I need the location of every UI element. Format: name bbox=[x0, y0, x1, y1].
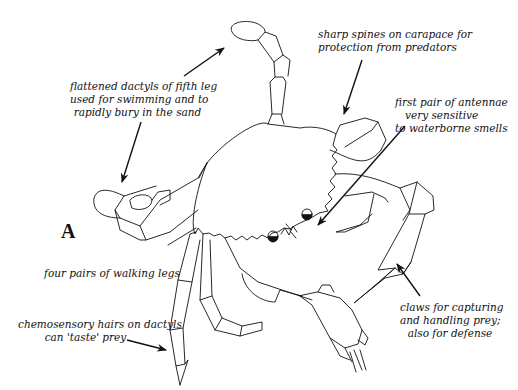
annotation-line: and handling prey; bbox=[400, 314, 500, 327]
annotation-line: to waterborne smells bbox=[395, 122, 505, 135]
walking-leg-1 bbox=[170, 232, 200, 385]
annotation-line: first pair of antennae bbox=[395, 96, 505, 109]
walking-leg-right-1 bbox=[330, 118, 386, 161]
annotation-line: claws for capturing bbox=[400, 301, 500, 314]
carapace bbox=[168, 123, 337, 245]
fifth-leg-top bbox=[231, 21, 290, 124]
annotation-spines: sharp spines on carapace for protection … bbox=[318, 28, 448, 54]
annotation-walking-legs: four pairs of walking legs bbox=[44, 267, 154, 280]
fifth-leg-left bbox=[94, 163, 207, 240]
annotation-claws: claws for capturing and handling prey; a… bbox=[400, 301, 500, 340]
annotation-line: protection from predators bbox=[318, 41, 448, 54]
annotation-line: flattened dactyls of fifth leg bbox=[70, 80, 205, 93]
walking-leg-right-2 bbox=[335, 174, 410, 232]
annotation-chemosensory: chemosensory hairs on dactyls can 'taste… bbox=[18, 318, 153, 344]
annotation-line: used for swimming and to bbox=[70, 93, 205, 106]
annotation-line: four pairs of walking legs bbox=[44, 267, 154, 280]
annotation-line: chemosensory hairs on dactyls bbox=[18, 318, 153, 331]
annotation-line: also for defense bbox=[400, 327, 500, 340]
crab-diagram: A flattened dactyls of fifth leg used fo… bbox=[0, 0, 518, 390]
annotation-fifth-leg: flattened dactyls of fifth leg used for … bbox=[70, 80, 205, 119]
annotation-line: rapidly bury in the sand bbox=[70, 106, 205, 119]
cheliped-lower bbox=[225, 238, 368, 372]
claw-arm bbox=[354, 182, 434, 303]
annotation-line: sharp spines on carapace for bbox=[318, 28, 448, 41]
figure-letter: A bbox=[61, 220, 75, 243]
annotation-antennae: first pair of antennae very sensitive to… bbox=[395, 96, 505, 135]
annotation-line: can 'taste' prey bbox=[18, 331, 153, 344]
annotation-line: very sensitive bbox=[395, 109, 505, 122]
